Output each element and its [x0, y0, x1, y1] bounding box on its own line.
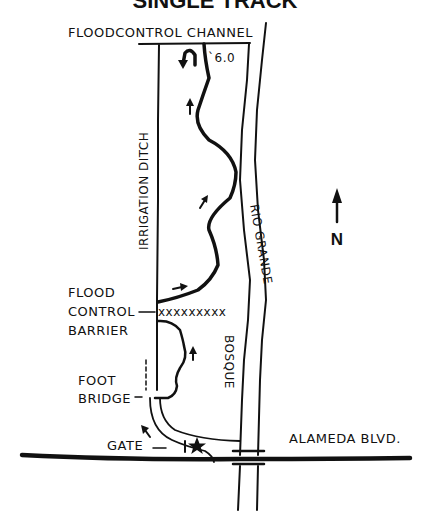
- label-alameda-blvd: ALAMEDA BLVD.: [289, 431, 401, 446]
- direction-arrow-icon: [189, 346, 197, 360]
- label-foot-bridge-line1: FOOT: [78, 373, 116, 388]
- rio-grande-south-east-bank: [257, 466, 258, 510]
- label-barrier-line3: BARRIER: [68, 323, 128, 338]
- flood-control-channel-line: [139, 43, 250, 44]
- trail-upper: [158, 44, 236, 302]
- label-flood-control-channel: FLOODCONTROL CHANNEL: [68, 25, 253, 40]
- direction-arrow-icon: [186, 98, 194, 114]
- direction-arrow-icon: [141, 425, 150, 437]
- direction-arrow-icon: [173, 283, 188, 291]
- label-irrigation-ditch: IRRIGATION DITCH: [137, 132, 151, 250]
- barrier-marks: xxxxxxxxx: [158, 305, 226, 319]
- trail-map: SINGLE TRACK FLOODCONTROL CHANNEL IRRIGA…: [0, 0, 431, 522]
- direction-arrow-icon: [200, 195, 208, 208]
- label-gate: GATE: [107, 438, 143, 453]
- rio-grande-west-bank: [240, 44, 250, 455]
- label-barrier-line1: FLOOD: [68, 285, 115, 300]
- rio-grande-south-west-bank: [238, 466, 240, 510]
- label-distance: `6.0: [208, 51, 235, 65]
- u-turn-arrowhead: [178, 60, 188, 69]
- label-north: N: [331, 230, 343, 249]
- north-arrow-icon: [332, 188, 342, 222]
- alameda-blvd-road: [22, 455, 410, 459]
- label-barrier-line2: CONTROL: [68, 304, 135, 319]
- map-title: SINGLE TRACK: [133, 0, 298, 13]
- irrigation-ditch-line: [157, 45, 159, 390]
- label-foot-bridge-line2: BRIDGE: [78, 391, 131, 406]
- label-bosque: BOSQUE: [222, 335, 236, 389]
- access-path-inner: [160, 398, 240, 441]
- label-rio-grande: RIO GRANDE: [247, 203, 275, 285]
- trail-lower: [155, 321, 185, 398]
- access-path-outer: [150, 398, 214, 462]
